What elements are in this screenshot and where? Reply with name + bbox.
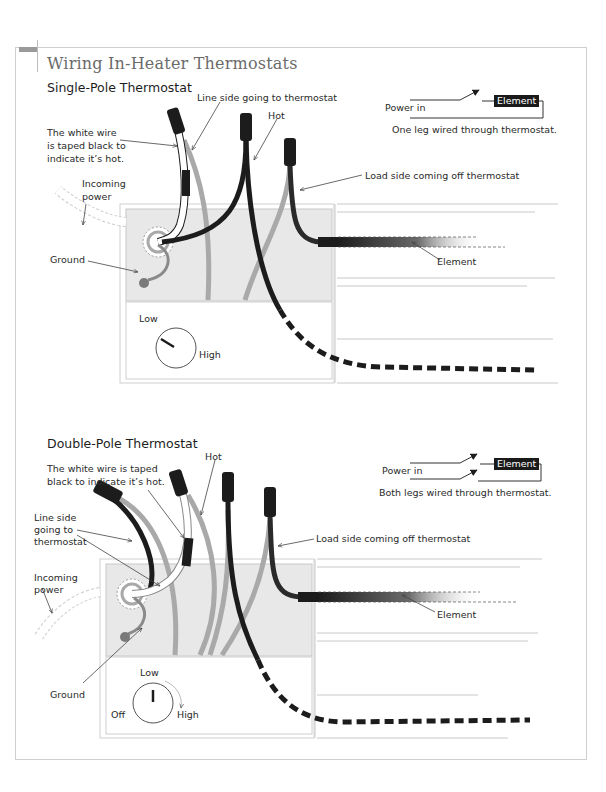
- dial-low-label: Low: [140, 667, 159, 679]
- label-white-wire-2: is taped black to: [47, 140, 126, 152]
- dial-off-label: Off: [111, 709, 125, 721]
- label-element: Element: [437, 256, 476, 268]
- label-incoming-power-1: Incoming: [34, 572, 78, 584]
- label-white-wire-1: The white wire is taped: [47, 463, 158, 475]
- label-ground: Ground: [50, 689, 85, 701]
- double-pole-heading: Double-Pole Thermostat: [47, 436, 198, 451]
- label-hot: Hot: [268, 110, 285, 122]
- dial-high-label: High: [199, 349, 221, 361]
- label-incoming-power-2: power: [34, 584, 63, 596]
- label-ground: Ground: [50, 254, 85, 266]
- dial-high-label: High: [177, 709, 199, 721]
- schematic-element-tag: Element: [494, 95, 539, 107]
- label-white-wire-2: black to indicate it’s hot.: [47, 476, 165, 488]
- label-line-side: Line side going to thermostat: [197, 92, 337, 104]
- label-incoming-power-1: Incoming: [82, 178, 126, 190]
- label-hot: Hot: [205, 451, 222, 463]
- label-line-side-1: Line side: [34, 512, 76, 524]
- label-load-side: Load side coming off thermostat: [316, 533, 470, 545]
- label-incoming-power-2: power: [82, 191, 111, 203]
- label-load-side: Load side coming off thermostat: [365, 170, 519, 182]
- label-white-wire-3: indicate it’s hot.: [47, 153, 124, 165]
- wiring-diagrams: [0, 0, 606, 792]
- schematic-caption: Both legs wired through thermostat.: [379, 487, 552, 499]
- schematic-power-in: Power in: [382, 465, 422, 477]
- single-pole-heading: Single-Pole Thermostat: [47, 80, 192, 95]
- schematic-power-in: Power in: [385, 102, 425, 114]
- schematic-caption: One leg wired through thermostat.: [392, 124, 557, 136]
- label-line-side-2: going to: [34, 524, 73, 536]
- schematic-element-tag: Element: [494, 458, 539, 470]
- label-white-wire-1: The white wire: [47, 127, 117, 139]
- label-line-side-3: thermostat: [34, 536, 87, 548]
- dial-low-label: Low: [139, 313, 158, 325]
- label-element: Element: [437, 609, 476, 621]
